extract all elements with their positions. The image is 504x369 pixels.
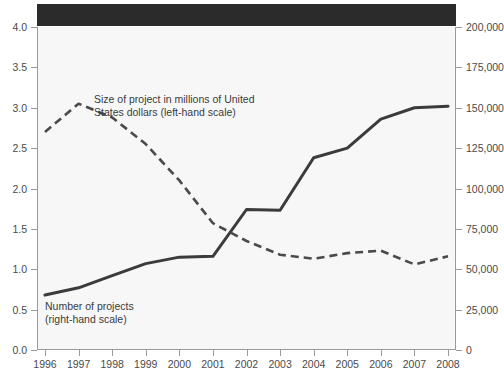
series-line-project-size (45, 104, 448, 265)
size-annotation: Size of project in millions of United St… (94, 93, 255, 118)
series-line-number-of-projects (45, 106, 448, 295)
count-annotation: Number of projects (right-hand scale) (45, 300, 134, 325)
